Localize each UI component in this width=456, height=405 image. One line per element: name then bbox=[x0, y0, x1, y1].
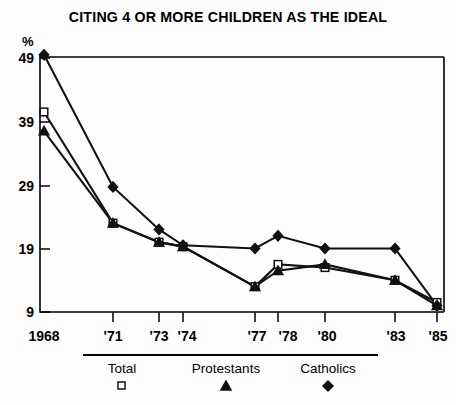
y-tick-label: 19 bbox=[18, 241, 34, 257]
data-point-filled-diamond-icon bbox=[273, 231, 282, 241]
x-tick-label: '83 bbox=[387, 328, 406, 344]
y-tick-label: 39 bbox=[18, 114, 34, 130]
line-chart: CITING 4 OR MORE CHILDREN AS THE IDEAL %… bbox=[0, 0, 456, 405]
x-tick-label: '85 bbox=[429, 328, 448, 344]
data-point-filled-diamond-icon bbox=[320, 244, 329, 254]
y-tick-label: 9 bbox=[26, 304, 34, 320]
series-line-total bbox=[44, 112, 437, 303]
legend-marker-filled-diamond-icon bbox=[323, 381, 333, 391]
x-tick-label: '74 bbox=[178, 328, 197, 344]
x-tick-label: '71 bbox=[104, 328, 123, 344]
legend-label-catholics: Catholics bbox=[300, 361, 356, 376]
legend-label-protestants: Protestants bbox=[192, 361, 261, 376]
chart-container: CITING 4 OR MORE CHILDREN AS THE IDEAL %… bbox=[0, 0, 456, 405]
series-line-protestants bbox=[44, 131, 437, 306]
y-tick-label: 29 bbox=[18, 178, 34, 194]
x-tick-label: '73 bbox=[150, 328, 169, 344]
x-tick-label: '78 bbox=[279, 328, 298, 344]
y-tick-label: 49 bbox=[18, 50, 34, 66]
legend-label-total: Total bbox=[108, 361, 137, 376]
legend-marker-filled-triangle-icon bbox=[221, 381, 231, 390]
x-tick-marks bbox=[113, 312, 437, 322]
x-tick-labels: 1968 '71 '73 '74 '77 '78 '80 '83 '85 bbox=[28, 328, 447, 344]
y-tick-marks bbox=[40, 58, 50, 312]
y-axis-unit-label: % bbox=[22, 34, 34, 49]
x-tick-label: 1968 bbox=[28, 328, 59, 344]
data-point-filled-diamond-icon bbox=[250, 244, 259, 254]
y-tick-labels: 49 39 29 19 9 bbox=[18, 50, 34, 320]
axis-lines bbox=[40, 55, 444, 312]
data-series-group bbox=[39, 50, 442, 311]
x-tick-label: '77 bbox=[248, 328, 267, 344]
chart-title: CITING 4 OR MORE CHILDREN AS THE IDEAL bbox=[69, 9, 388, 25]
data-point-open-square-icon bbox=[40, 108, 48, 116]
chart-legend: Total Protestants Catholics bbox=[83, 355, 378, 391]
series-line-catholics bbox=[44, 55, 437, 306]
legend-marker-open-square-icon bbox=[118, 382, 125, 389]
x-tick-label: '80 bbox=[318, 328, 337, 344]
